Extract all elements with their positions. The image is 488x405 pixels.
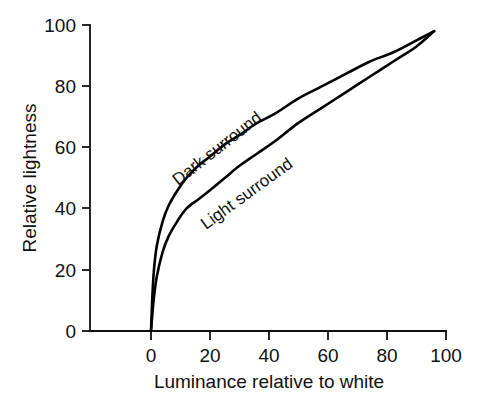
x-axis-title: Luminance relative to white bbox=[154, 371, 384, 392]
y-axis-title: Relative lightness bbox=[19, 104, 40, 253]
x-tick-label-20: 20 bbox=[199, 345, 220, 366]
series-label-dark-surround: Dark surround bbox=[169, 108, 266, 189]
x-tick-label-60: 60 bbox=[317, 345, 338, 366]
figure-container: 100 80 60 40 20 0 0 20 40 60 80 100 Lumi… bbox=[0, 0, 488, 405]
y-tick-label-100: 100 bbox=[44, 15, 76, 36]
y-tick-label-80: 80 bbox=[55, 76, 76, 97]
x-axis-tick-labels: 0 20 40 60 80 100 bbox=[146, 345, 462, 366]
x-axis-ticks bbox=[151, 331, 446, 340]
y-tick-label-20: 20 bbox=[55, 260, 76, 281]
x-tick-label-0: 0 bbox=[146, 345, 157, 366]
x-tick-label-40: 40 bbox=[258, 345, 279, 366]
series-curve-light-surround bbox=[151, 31, 434, 331]
x-tick-label-100: 100 bbox=[430, 345, 462, 366]
relative-lightness-chart: 100 80 60 40 20 0 0 20 40 60 80 100 Lumi… bbox=[0, 0, 488, 405]
y-tick-label-40: 40 bbox=[55, 198, 76, 219]
y-axis-tick-labels: 100 80 60 40 20 0 bbox=[44, 15, 76, 342]
y-axis-ticks bbox=[82, 25, 90, 331]
x-tick-label-80: 80 bbox=[376, 345, 397, 366]
series-curve-dark-surround bbox=[151, 31, 434, 331]
series-label-light-surround: Light surround bbox=[197, 154, 296, 233]
y-tick-label-0: 0 bbox=[65, 321, 76, 342]
y-tick-label-60: 60 bbox=[55, 137, 76, 158]
